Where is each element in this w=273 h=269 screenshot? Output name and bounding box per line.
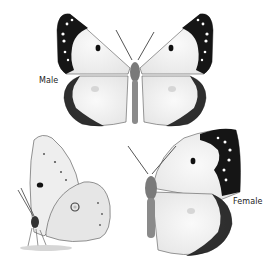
female-abdomen [147, 198, 155, 238]
male-right-discal-spot [169, 45, 174, 51]
male-butterfly [57, 14, 213, 126]
female-antenna-left [128, 146, 148, 174]
side-view-butterfly [18, 135, 110, 251]
side-forewing-spot [37, 182, 43, 187]
female-butterfly [128, 129, 241, 256]
side-ground [20, 245, 72, 251]
male-label: Male [39, 76, 58, 85]
male-abdomen [132, 80, 138, 124]
female-label: Female [233, 197, 263, 206]
male-thorax [130, 62, 140, 82]
male-antenna-right [138, 32, 154, 60]
female-discal-spot [191, 158, 196, 164]
female-thorax [145, 176, 157, 200]
male-left-discal-spot [96, 45, 101, 51]
butterfly-illustration: Male Female [0, 0, 273, 269]
side-body [31, 216, 39, 228]
male-antenna-left [116, 30, 132, 60]
